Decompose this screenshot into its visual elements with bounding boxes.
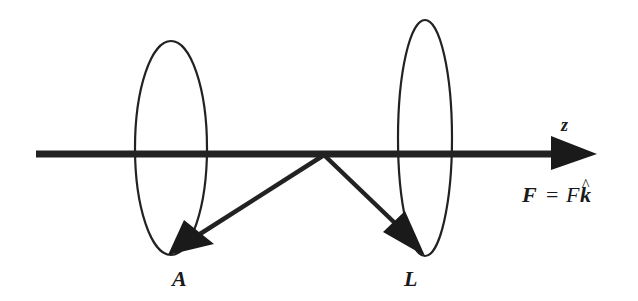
- vector-a-line: [200, 155, 324, 234]
- precession-diagram: z A L F = F k ^: [0, 0, 638, 301]
- force-magnitude-symbol: F: [565, 182, 580, 207]
- vector-l-line: [324, 155, 398, 226]
- unit-vector-hat-icon: ^: [582, 176, 590, 193]
- force-vector-symbol: F: [521, 182, 537, 207]
- z-axis-arrowhead-icon: [551, 136, 597, 170]
- vector-l-label: L: [403, 266, 417, 291]
- orbit-a-ellipse: [135, 41, 207, 255]
- equals-sign: =: [546, 182, 558, 207]
- z-axis-label: z: [560, 115, 568, 135]
- vector-a-label: A: [170, 266, 187, 291]
- force-equation: F = F k ^: [521, 176, 591, 207]
- vector-a-arrowhead-icon: [168, 220, 214, 255]
